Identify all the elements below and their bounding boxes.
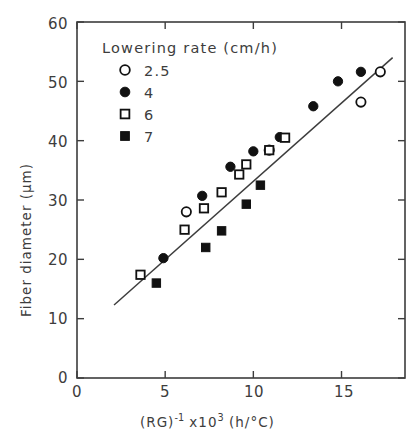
data-point-7-2: [217, 227, 225, 235]
data-point-6-4: [235, 170, 243, 178]
trend-line: [114, 58, 393, 305]
regression-line: [114, 58, 393, 305]
data-point-6-0: [136, 271, 144, 279]
legend-label-0: 2.5: [144, 63, 171, 79]
legend-label-1: 4: [144, 85, 154, 101]
legend-title: Lowering rate (cm/h): [102, 40, 278, 56]
data-point-2-5-3: [376, 67, 385, 76]
data-point-4-6: [333, 77, 342, 86]
x-axis-title-mantissa: x10: [184, 414, 217, 430]
data-point-4-2: [226, 162, 235, 171]
fiber-diameter-scatter-figure: 0 10 20 30 40 50 60 0 5 10 15 (RG)-1 x10…: [0, 0, 420, 447]
x-axis-title-exponent: -1: [174, 412, 184, 423]
y-tick-label-30: 30: [28, 192, 68, 210]
data-point-7-3: [242, 200, 250, 208]
legend-marker-open-circle: [120, 65, 130, 75]
y-tick-label-10: 10: [28, 310, 68, 328]
data-point-7-4: [256, 181, 264, 189]
legend-label-2: 6: [144, 107, 154, 123]
legend-marker-filled-circle: [120, 87, 130, 97]
y-tick-label-60: 60: [28, 15, 68, 33]
data-point-6-7: [281, 134, 289, 142]
x-tick-label-10: 10: [234, 383, 274, 401]
x-tick-label-5: 5: [145, 383, 185, 401]
data-point-6-2: [200, 204, 208, 212]
data-point-2-5-2: [356, 97, 365, 106]
legend-label-3: 7: [144, 129, 154, 145]
y-axis-title: Fiber diameter (μm): [18, 163, 34, 317]
data-point-7-1: [202, 243, 210, 251]
x-tick-label-15: 15: [324, 383, 364, 401]
data-point-4-3: [249, 147, 258, 156]
data-point-4-7: [356, 67, 365, 76]
data-point-6-1: [180, 225, 188, 233]
x-tick-label-0: 0: [57, 383, 97, 401]
data-point-4-1: [198, 191, 207, 200]
y-tick-label-20: 20: [28, 251, 68, 269]
data-point-7-0: [152, 279, 160, 287]
legend-marker-filled-square: [121, 132, 130, 141]
legend-marker-open-square: [121, 110, 130, 119]
data-point-4-0: [159, 253, 168, 262]
x-axis-title-units: (h/°C): [224, 414, 275, 430]
x-axis-title-base: (RG): [140, 414, 174, 430]
y-tick-label-50: 50: [28, 74, 68, 92]
data-point-6-6: [265, 146, 273, 154]
data-point-4-5: [309, 102, 318, 111]
y-tick-label-40: 40: [28, 133, 68, 151]
legend-markers: [120, 65, 130, 140]
x-axis-title: (RG)-1 x103 (h/°C): [140, 412, 275, 430]
data-point-6-3: [217, 188, 225, 196]
data-point-6-5: [242, 160, 250, 168]
data-points: [136, 67, 385, 287]
data-point-2-5-0: [182, 207, 191, 216]
